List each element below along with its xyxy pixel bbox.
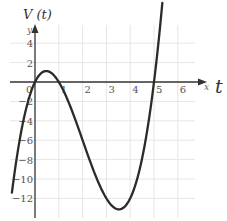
x-tick-label: 5: [156, 84, 162, 95]
y-axis-small-label: y: [26, 25, 33, 35]
chart-title: V (t): [23, 7, 52, 22]
y-tick-label: −8: [18, 155, 33, 166]
y-tick-label: 2: [27, 58, 33, 69]
x-tick-label: 3: [108, 84, 114, 95]
x-axis-label: t: [215, 75, 223, 97]
y-axis-arrow-icon: [32, 24, 39, 33]
y-tick-label: −12: [12, 193, 33, 204]
x-axis-small-label: x: [204, 82, 209, 92]
chart: 012345642−2−4−6−8−10−12 V (t) y x t: [0, 0, 227, 221]
x-tick-label: 6: [180, 84, 186, 95]
x-tick-label: 2: [85, 84, 91, 95]
y-tick-label: −2: [18, 96, 33, 107]
y-tick-label: 4: [27, 38, 33, 49]
y-tick-label: −4: [18, 116, 33, 127]
x-tick-label: 4: [132, 84, 138, 95]
